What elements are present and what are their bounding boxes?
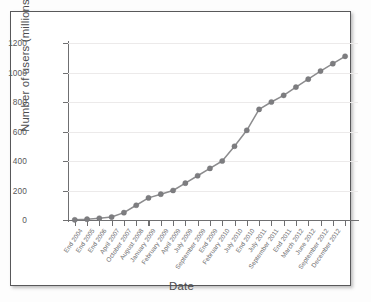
- series-line: [75, 56, 345, 220]
- data-point: [343, 54, 348, 59]
- x-tick-mark: [235, 221, 236, 226]
- data-point: [318, 68, 323, 73]
- data-point: [109, 214, 114, 219]
- x-tick-mark: [161, 221, 162, 226]
- y-tick-label: 600: [13, 127, 27, 137]
- x-axis-title: Date: [11, 280, 352, 292]
- data-point: [146, 195, 151, 200]
- x-tick-mark: [247, 221, 248, 226]
- data-point: [232, 144, 237, 149]
- data-point: [183, 181, 188, 186]
- y-tick-label: 800: [13, 97, 27, 107]
- data-point: [306, 77, 311, 82]
- y-tick-label: 1200: [8, 38, 27, 48]
- data-point: [121, 210, 126, 215]
- data-point: [281, 93, 286, 98]
- x-tick-mark: [296, 221, 297, 226]
- y-tick-label: 200: [13, 186, 27, 196]
- x-tick-mark: [308, 221, 309, 226]
- data-point: [330, 61, 335, 66]
- data-point: [244, 128, 249, 133]
- y-axis-title: Number of users (millions): [19, 0, 31, 132]
- x-tick-mark: [333, 221, 334, 226]
- data-point: [207, 166, 212, 171]
- data-point: [72, 217, 77, 222]
- plot-area: [68, 43, 358, 220]
- x-tick-mark: [321, 221, 322, 226]
- x-tick-mark: [185, 221, 186, 226]
- data-point: [97, 216, 102, 221]
- x-tick-mark: [345, 221, 346, 226]
- x-tick-mark: [222, 221, 223, 226]
- x-tick-mark: [271, 221, 272, 226]
- data-point: [256, 107, 261, 112]
- data-point: [220, 158, 225, 163]
- x-tick-mark: [136, 221, 137, 226]
- x-tick-mark: [124, 221, 125, 226]
- y-tick-label: 400: [13, 156, 27, 166]
- x-tick-mark: [112, 221, 113, 226]
- data-series-users: [68, 43, 358, 220]
- x-tick-mark: [198, 221, 199, 226]
- x-tick-mark: [284, 221, 285, 226]
- data-point: [84, 217, 89, 222]
- figure-root: Number of users (millions) 0200400600800…: [0, 0, 371, 302]
- x-tick-mark: [210, 221, 211, 226]
- x-tick-mark: [173, 221, 174, 226]
- data-point: [158, 192, 163, 197]
- y-tick-mark: [63, 220, 68, 221]
- y-tick-label: 0: [22, 215, 27, 225]
- x-tick-mark: [259, 221, 260, 226]
- chart-panel: Number of users (millions) 0200400600800…: [10, 11, 351, 286]
- data-point: [170, 188, 175, 193]
- data-point: [269, 99, 274, 104]
- data-point: [195, 173, 200, 178]
- data-point: [134, 203, 139, 208]
- x-tick-mark: [99, 221, 100, 226]
- x-tick-mark: [148, 221, 149, 226]
- y-tick-label: 1000: [8, 68, 27, 78]
- series-markers: [72, 54, 348, 223]
- data-point: [293, 85, 298, 90]
